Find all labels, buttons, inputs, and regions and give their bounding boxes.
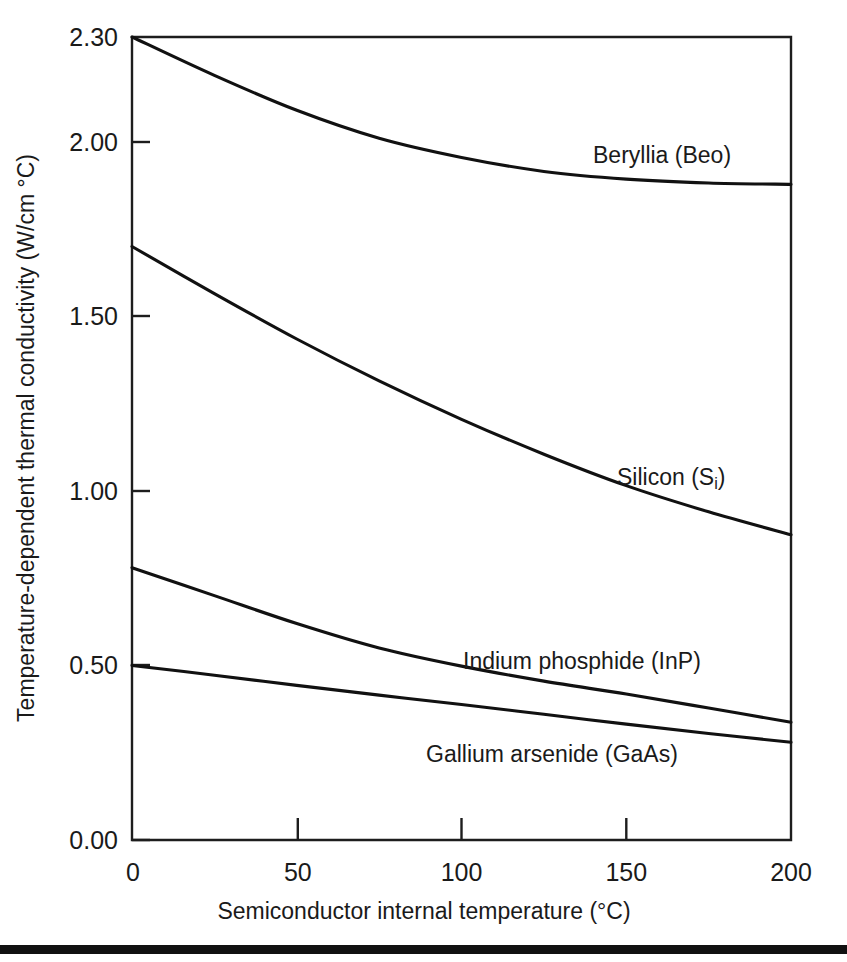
x-tick-label-100: 100 [441, 858, 483, 886]
series-label-gallium-arsenide: Gallium arsenide (GaAs) [426, 741, 678, 767]
series-label-silicon: Silicon (Si) [617, 464, 725, 492]
page-bottom-rule [0, 945, 847, 954]
series-label-beryllia: Beryllia (Beo) [593, 142, 731, 168]
x-tick-label-50: 50 [284, 858, 312, 886]
x-tick-label-0: 0 [126, 858, 140, 886]
x-tick-label-150: 150 [605, 858, 647, 886]
series-label-silicon-main: Silicon (S [617, 464, 714, 490]
line-chart: 2.30 2.00 1.50 1.00 0.50 0.00 0 50 100 1… [0, 0, 847, 930]
series-labels: Beryllia (Beo) Silicon (Si) Indium phosp… [426, 142, 731, 767]
curve-indium-phosphide-inp [132, 568, 791, 723]
y-tick-label-150: 1.50 [69, 302, 118, 330]
y-tick-labels: 2.30 2.00 1.50 1.00 0.50 0.00 [69, 23, 118, 854]
y-tick-label-100: 1.00 [69, 477, 118, 505]
x-tick-labels: 0 50 100 150 200 [126, 858, 812, 886]
series-label-indium-phosphide: Indium phosphide (InP) [463, 648, 701, 674]
series-label-silicon-tail: ) [718, 464, 726, 490]
y-tick-label-000: 0.00 [69, 826, 118, 854]
y-tick-label-200: 2.00 [69, 128, 118, 156]
y-tick-label-050: 0.50 [69, 651, 118, 679]
x-tick-label-200: 200 [770, 858, 812, 886]
x-axis-title: Semiconductor internal temperature (°C) [217, 898, 630, 924]
figure-page: 2.30 2.00 1.50 1.00 0.50 0.00 0 50 100 1… [0, 0, 847, 962]
x-axis-ticks [298, 818, 627, 840]
curve-silicon-si [132, 246, 791, 534]
y-tick-label-230: 2.30 [69, 23, 118, 51]
y-axis-title: Temperature-dependent thermal conductivi… [13, 154, 39, 722]
chart-figure: 2.30 2.00 1.50 1.00 0.50 0.00 0 50 100 1… [0, 0, 847, 930]
